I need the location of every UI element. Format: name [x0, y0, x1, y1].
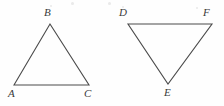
scan-artifact-speck — [71, 2, 74, 5]
vertex-label-e: E — [164, 87, 171, 98]
triangle-abc-shape — [14, 24, 89, 85]
triangle-def-shape — [128, 24, 212, 84]
geometry-figure: A B C D F E — [0, 0, 224, 106]
vertex-label-a: A — [8, 88, 15, 99]
vertex-label-c: C — [84, 88, 91, 99]
vertex-label-b: B — [44, 7, 51, 18]
scan-artifact-speck — [50, 5, 52, 7]
triangles-svg — [0, 0, 224, 106]
scan-artifact-speck — [122, 6, 124, 8]
scan-artifact-speck — [196, 7, 198, 9]
scan-artifact-speck — [108, 2, 111, 5]
vertex-label-d: D — [119, 7, 127, 18]
vertex-label-f: F — [203, 7, 210, 18]
